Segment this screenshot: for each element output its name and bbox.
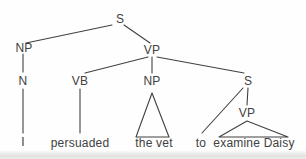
node-np-subject: NP [15,42,32,54]
node-vp-embedded: VP [239,107,255,119]
node-s-root: S [116,13,124,25]
node-vb: VB [72,75,88,87]
edge-s-vp [124,25,150,43]
triangle-vp-embedded [219,121,288,137]
word-persuaded: persuaded [51,137,110,149]
node-vp-main: VP [144,44,160,56]
node-s-embedded: S [244,75,252,87]
edge-s2-vp2 [247,88,248,105]
word-i: I [21,136,25,148]
edge-vp-s [157,57,244,73]
syntax-tree-diagram: S NP VP N VB NP S VP I persuaded the vet… [0,0,306,159]
edge-s-np [26,25,112,43]
word-to: to [196,137,206,149]
word-examine-daisy: examine Daisy [213,137,294,149]
node-np-object: NP [143,75,160,87]
word-the-vet: the vet [135,137,172,149]
triangle-np-object [136,93,169,137]
node-n-subject: N [19,75,28,87]
edge-vp-vb [85,57,148,73]
